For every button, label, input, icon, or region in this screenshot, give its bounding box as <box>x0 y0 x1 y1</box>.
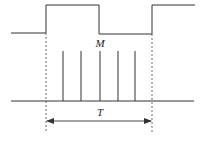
period-label: T <box>97 106 104 118</box>
pulse-train <box>63 51 135 101</box>
pulse-label: M <box>94 37 105 49</box>
gate-waveform <box>11 5 195 34</box>
timing-diagram: M T <box>0 0 206 144</box>
